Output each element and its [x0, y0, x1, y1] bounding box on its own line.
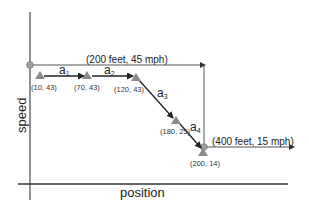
point-label: (70, 43) [74, 84, 100, 92]
diagram-canvas [0, 0, 309, 210]
limit-2-label: (400 feet, 15 mph) [212, 137, 294, 147]
segment-label-a1: a1 [59, 64, 70, 77]
segment-label-a3: a3 [157, 87, 168, 100]
point-label: (10, 43) [31, 84, 57, 92]
point-label: (120, 43) [114, 86, 144, 94]
segment-label-a4: a4 [190, 121, 201, 134]
speed-position-diagram: (200 feet, 45 mph) (400 feet, 15 mph) a1… [0, 0, 309, 210]
point-label: (180, 25) [160, 128, 190, 136]
y-axis-label: speed [15, 98, 28, 133]
point-label: (200, 14) [190, 160, 220, 168]
point-markers [35, 71, 208, 156]
triangle-marker-icon [82, 71, 92, 79]
limit-1-label: (200 feet, 45 mph) [86, 55, 168, 65]
x-axis-label: position [120, 186, 165, 199]
triangle-marker-icon [131, 73, 141, 81]
segment-label-a2: a2 [104, 64, 115, 77]
limit-start-marker [27, 62, 34, 69]
limit-change-marker [201, 144, 208, 151]
triangle-marker-icon [35, 71, 45, 79]
